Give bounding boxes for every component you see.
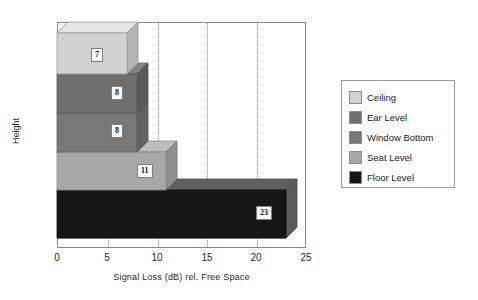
legend-item-floor-level[interactable]: Floor Level bbox=[349, 167, 454, 187]
legend-item-ceiling[interactable]: Ceiling bbox=[349, 87, 454, 107]
xtick-0: 0 bbox=[42, 252, 72, 263]
legend-swatch-ear-level bbox=[349, 111, 362, 124]
value-label-floor-level: 23 bbox=[256, 206, 272, 220]
value-label-ear-level: 8 bbox=[111, 86, 123, 100]
legend-label-ear-level: Ear Level bbox=[367, 112, 407, 123]
legend-item-seat-level[interactable]: Seat Level bbox=[349, 147, 454, 167]
x-axis-label: Signal Loss (dB) rel. Free Space bbox=[57, 272, 306, 282]
xtick-10: 10 bbox=[142, 252, 172, 263]
xtick-5: 5 bbox=[92, 252, 122, 263]
xtick-25: 25 bbox=[291, 252, 321, 263]
y-axis-label: Height bbox=[11, 101, 21, 161]
value-label-ceiling: 7 bbox=[91, 48, 103, 62]
legend-label-seat-level: Seat Level bbox=[367, 152, 412, 163]
legend-swatch-ceiling bbox=[349, 91, 362, 104]
legend-swatch-window-bottom bbox=[349, 131, 362, 144]
legend-swatch-floor-level bbox=[349, 171, 362, 184]
legend-item-ear-level[interactable]: Ear Level bbox=[349, 107, 454, 127]
legend: Ceiling Ear Level Window Bottom Seat Lev… bbox=[341, 80, 455, 188]
legend-label-ceiling: Ceiling bbox=[367, 92, 396, 103]
chart-canvas: 7 8 8 11 23 0 5 10 15 20 25 Signal Loss … bbox=[0, 0, 478, 300]
gridline-15 bbox=[207, 23, 208, 247]
legend-swatch-seat-level bbox=[349, 151, 362, 164]
value-label-seat-level: 11 bbox=[137, 164, 153, 178]
legend-item-window-bottom[interactable]: Window Bottom bbox=[349, 127, 454, 147]
xtick-15: 15 bbox=[192, 252, 222, 263]
value-label-window-bottom: 8 bbox=[111, 124, 123, 138]
xtick-20: 20 bbox=[241, 252, 271, 263]
legend-label-window-bottom: Window Bottom bbox=[367, 132, 434, 143]
gridline-5 bbox=[108, 23, 109, 247]
gridline-10 bbox=[158, 23, 159, 247]
legend-label-floor-level: Floor Level bbox=[367, 172, 414, 183]
